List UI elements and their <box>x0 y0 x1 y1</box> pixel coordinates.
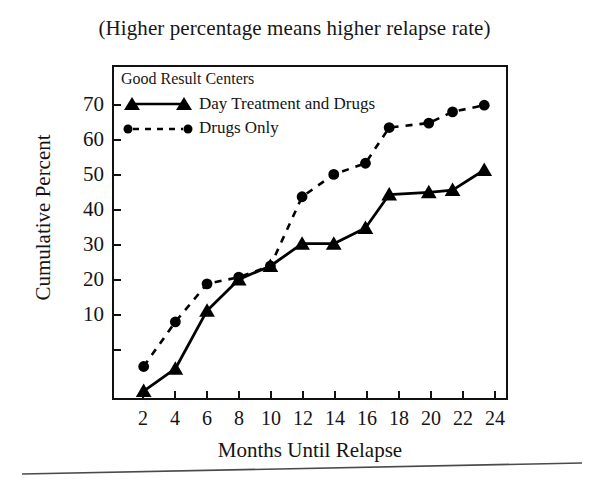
series-drugs-only <box>138 100 489 372</box>
data-point <box>479 100 490 111</box>
y-tick-20: 20 <box>58 269 104 290</box>
data-point <box>476 162 492 176</box>
y-tick-60: 60 <box>58 129 104 150</box>
legend-item-drugs-only: Drugs Only <box>121 116 391 140</box>
legend-title: Good Result Centers <box>121 70 391 88</box>
y-tick-30: 30 <box>58 234 104 255</box>
legend: Good Result Centers Day Treatment and Dr… <box>121 70 391 140</box>
y-axis-title: Cumulative Percent <box>31 98 56 338</box>
y-tick-70: 70 <box>58 94 104 115</box>
y-tick-50: 50 <box>58 164 104 185</box>
legend-label-drugs-only: Drugs Only <box>195 118 279 138</box>
data-point <box>297 191 308 202</box>
y-tick-40: 40 <box>58 199 104 220</box>
x-tick-24: 24 <box>475 408 515 428</box>
legend-item-day-treatment-and-drugs: Day Treatment and Drugs <box>121 92 391 116</box>
data-point <box>360 158 371 169</box>
series-day-treatment-and-drugs <box>136 162 492 397</box>
legend-swatch-circle-dashed-icon <box>121 118 195 138</box>
y-axis-ticks <box>112 105 121 350</box>
chart-figure: (Higher percentage means higher relapse … <box>0 0 589 489</box>
data-point <box>167 361 183 375</box>
data-point <box>170 316 181 327</box>
y-axis-tick-labels: 70 60 50 40 30 20 10 <box>52 0 104 489</box>
bottom-divider-rule <box>22 462 582 476</box>
data-point <box>202 278 213 289</box>
data-point <box>423 118 434 129</box>
data-point <box>328 169 339 180</box>
legend-swatch-triangle-solid-icon <box>121 94 195 114</box>
x-axis-ticks <box>143 391 495 400</box>
x-axis-title: Months Until Relapse <box>112 438 508 463</box>
y-tick-10: 10 <box>58 304 104 325</box>
legend-label-day-treatment-and-drugs: Day Treatment and Drugs <box>195 94 375 114</box>
x-axis-tick-labels: 2 4 6 8 10 12 14 16 18 20 22 24 <box>112 408 508 434</box>
data-point <box>447 107 458 118</box>
data-point <box>138 361 149 372</box>
